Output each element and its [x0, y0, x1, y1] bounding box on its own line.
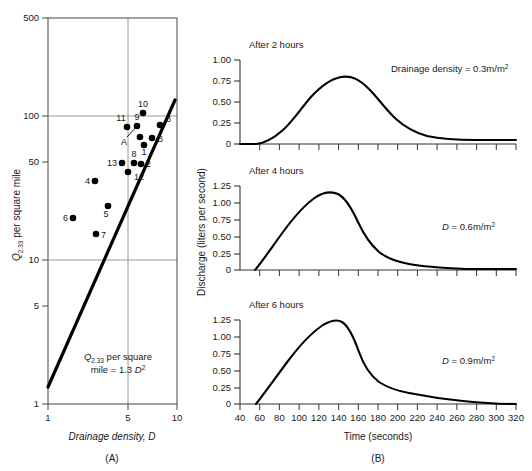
chart-1-ylabel-0: 0 [226, 138, 231, 149]
chart-2-ylabel-0.75: 0.75 [213, 214, 232, 225]
panel-a-point-labels: 10 9 11 3 A B 1 8 2 13 12 4 5 6 7 [63, 99, 171, 240]
panel-a-caption: (A) [105, 453, 118, 464]
figure-root: 500 100 50 10 5 1 1 5 10 Drainage densit… [0, 0, 532, 471]
chart-3-annotation: D = 0.9m/m2 [442, 355, 495, 367]
chart-1-annotation-prefix: Drainage density = 0.3m/m [391, 63, 505, 74]
chart-3-xlabel-320: 320 [508, 412, 524, 423]
equation-line-1: Q2.33 per square [84, 351, 152, 364]
chart-1-title: After 2 hours [249, 39, 304, 50]
data-point-9 [134, 123, 141, 130]
data-point-13 [119, 160, 126, 167]
chart-1-ylabel-1.00: 1.00 [213, 54, 232, 65]
point-label-3: 3 [166, 114, 171, 124]
chart-3-xlabel-220: 220 [409, 412, 425, 423]
data-point-10 [140, 110, 147, 117]
panel-a-x-axis-title: Drainage density, D [68, 431, 155, 442]
chart-3-xlabel-100: 100 [291, 412, 307, 423]
point-label-12: 12 [134, 172, 144, 182]
x-title-prefix: Drainage density, [68, 431, 148, 442]
chart-3-xlabel-140: 140 [331, 412, 347, 423]
chart-3-xlabel-120: 120 [311, 412, 327, 423]
data-point-3 [157, 122, 164, 129]
svg-text:Q2.33 per square mile: Q2.33 per square mile [11, 168, 24, 261]
chart-3-xlabel-160: 160 [350, 412, 366, 423]
data-point-6 [70, 215, 77, 222]
ytick-label-10: 10 [28, 254, 39, 265]
chart-3-annotation-exponent: 2 [491, 355, 495, 362]
chart-3-ylabel-0.25: 0.25 [213, 382, 232, 393]
ytick-label-500: 500 [23, 12, 39, 23]
chart-3-xlabel-300: 300 [488, 412, 504, 423]
data-point-2 [138, 161, 145, 168]
chart-3-xlabel-240: 240 [429, 412, 445, 423]
chart-3-xlabel-80: 80 [274, 412, 285, 423]
ytick-label-5: 5 [34, 300, 39, 311]
y-title-rest: per square mile [11, 168, 22, 240]
chart-2-ylabel-0.50: 0.50 [213, 231, 232, 242]
panel-a-points [70, 110, 164, 238]
point-label-13: 13 [107, 158, 117, 168]
chart-2-annotation: D = 0.6m/m2 [442, 221, 495, 233]
point-label-4: 4 [85, 176, 90, 186]
data-point-a [137, 134, 144, 141]
data-point-12 [125, 169, 132, 176]
panel-a-y-ticks [42, 18, 48, 404]
chart-1-ylabel-0.75: 0.75 [213, 75, 232, 86]
point-label-1: 1 [141, 147, 146, 157]
panel-b: Discharge (liters per second) After 2 ho… [196, 39, 524, 464]
panel-b-y-axis-title: Discharge (liters per second) [196, 168, 207, 296]
chart-2-y-ticks [234, 186, 240, 270]
chart-3-x-ticks [240, 404, 516, 410]
equation-subscript: 2.33 [91, 357, 104, 364]
chart-1-ylabel-0.50: 0.50 [213, 96, 232, 107]
equation-exponent: 2 [142, 364, 146, 371]
point-label-9: 9 [134, 112, 139, 122]
point-label-8: 8 [131, 149, 136, 159]
chart-3-y-ticks [234, 320, 240, 404]
equation-rest: per square [104, 351, 152, 362]
chart-3-title: After 6 hours [249, 299, 304, 310]
chart-2-title: After 4 hours [249, 165, 304, 176]
point-label-7: 7 [101, 230, 106, 240]
equation-line-2: mile = 1.3 D2 [91, 364, 146, 376]
chart-1-annotation: Drainage density = 0.3m/m2 [391, 63, 509, 75]
chart-3-ylabel-0: 0 [226, 398, 231, 409]
point-label-b: B [157, 134, 163, 144]
chart-1-annotation-exponent: 2 [505, 63, 509, 70]
panel-a-equation-annotation: Q2.33 per square mile = 1.3 D2 [84, 351, 152, 375]
chart-3-xlabel-200: 200 [390, 412, 406, 423]
ytick-label-50: 50 [28, 156, 39, 167]
equation-prefix: mile = 1.3 [91, 364, 135, 375]
chart-3-xlabel-180: 180 [370, 412, 386, 423]
chart-1-x-ticks [260, 144, 516, 150]
panel-a-y-axis-title: Q2.33 per square mile [11, 168, 24, 261]
ytick-label-1: 1 [34, 398, 39, 409]
data-point-8 [131, 160, 138, 167]
chart-2-annotation-exponent: 2 [491, 221, 495, 228]
chart-2-x-ticks [260, 270, 516, 276]
chart-3-ylabel-0.50: 0.50 [213, 365, 232, 376]
svg-text:Discharge (liters per second): Discharge (liters per second) [196, 168, 207, 296]
panel-a: 500 100 50 10 5 1 1 5 10 Drainage densit… [11, 12, 182, 464]
xtick-label-1: 1 [45, 412, 50, 423]
chart-3-annotation-prefix: = 0.9m/m [449, 355, 492, 366]
panel-b-x-axis-title: Time (seconds) [344, 431, 413, 442]
xtick-label-10: 10 [172, 412, 183, 423]
panel-a-x-ticks [48, 404, 177, 410]
chart-2-ylabel-1.00: 1.00 [213, 197, 232, 208]
point-label-a: A [121, 137, 127, 147]
chart-3-xlabel-260: 260 [449, 412, 465, 423]
chart-2-ylabel-0.25: 0.25 [213, 248, 232, 259]
chart-3-ylabel-0.75: 0.75 [213, 348, 232, 359]
data-point-b [149, 135, 156, 142]
fit-line [48, 100, 175, 387]
data-point-11 [124, 124, 131, 131]
chart-2-ylabel-0: 0 [226, 264, 231, 275]
x-title-var: D [148, 431, 155, 442]
chart-3-ylabel-1.00: 1.00 [213, 331, 232, 342]
chart-3-xlabel-60: 60 [254, 412, 265, 423]
ytick-label-100: 100 [23, 110, 39, 121]
point-label-10: 10 [138, 99, 148, 109]
chart-3-ylabel-1.25: 1.25 [213, 314, 232, 325]
panel-b-caption: (B) [371, 453, 384, 464]
